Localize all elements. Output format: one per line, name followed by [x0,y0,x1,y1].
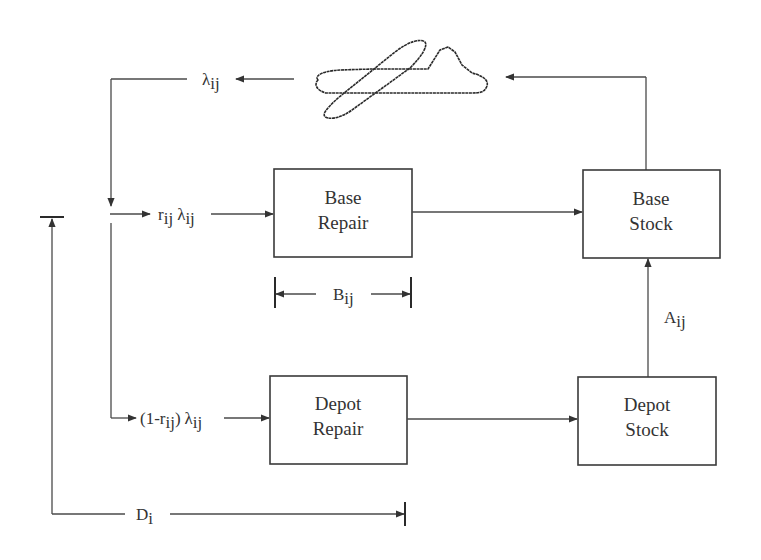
resupply-to-aircraft-connector [506,77,646,170]
repair-flow-diagram: λij rijλij (1-rij)λij Base Repair Base S… [0,0,761,560]
depot-flow-label: (1-rij)λij [140,409,202,432]
depot-delay-dimension [40,217,405,526]
depot-resupply-label: Aij [664,308,686,331]
svg-text:Base: Base [325,187,362,208]
base-repair-box: Base Repair [274,169,412,257]
failure-rate-label: λij [202,70,220,93]
depot-delay-label: Di [136,505,153,528]
base-repair-time-label: Bij [333,285,354,308]
failure-distribution-connector [111,79,187,418]
base-stock-box: Base Stock [583,170,720,258]
svg-text:Depot: Depot [624,394,671,415]
base-flow-label: rijλij [158,205,195,228]
depot-stock-box: Depot Stock [578,377,716,465]
svg-text:Depot: Depot [315,393,362,414]
svg-text:Base: Base [633,188,670,209]
svg-text:Repair: Repair [313,418,364,439]
airplane-outline-icon [316,40,487,118]
depot-repair-box: Depot Repair [270,376,407,464]
svg-text:Repair: Repair [318,212,369,233]
svg-text:Stock: Stock [625,419,669,440]
svg-text:Stock: Stock [629,213,673,234]
